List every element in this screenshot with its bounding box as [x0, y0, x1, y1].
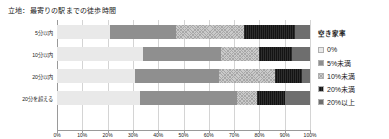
- legend-label: 20%未満: [327, 84, 355, 94]
- legend-swatch-icon: [318, 73, 324, 79]
- legend-item[interactable]: 0%: [318, 43, 386, 56]
- x-tick-label: 10%: [77, 132, 87, 138]
- bar-segment[interactable]: [57, 25, 110, 39]
- plot-area: [57, 20, 310, 130]
- x-tick-label: 40%: [153, 132, 163, 138]
- chart-container: 立地：最寄りの駅までの徒歩時間 5分以内10分以内20分以内20分を超える 0%…: [0, 0, 389, 139]
- x-tick-label: 30%: [128, 132, 138, 138]
- bar-segment[interactable]: [302, 69, 310, 83]
- bar-row[interactable]: [57, 47, 310, 61]
- x-tick-label: 90%: [280, 132, 290, 138]
- bar-segment[interactable]: [57, 91, 140, 105]
- legend-swatch-icon: [318, 86, 324, 92]
- legend-swatch-icon: [318, 47, 324, 53]
- x-tick-label: 80%: [254, 132, 264, 138]
- gridline: [310, 20, 311, 130]
- bar-segment[interactable]: [110, 25, 176, 39]
- bar-segment[interactable]: [295, 25, 310, 39]
- legend-item[interactable]: 5%未満: [318, 56, 386, 69]
- legend-item[interactable]: 10%未満: [318, 69, 386, 82]
- legend-swatch-icon: [318, 60, 324, 66]
- legend-swatch-icon: [318, 99, 324, 105]
- legend-label: 10%未満: [327, 71, 355, 81]
- category-axis-labels: 5分以内10分以内20分以内20分を超える: [0, 20, 53, 130]
- category-label: 20分以内: [1, 73, 53, 80]
- x-tick-label: 100%: [304, 132, 317, 138]
- bar-segment[interactable]: [244, 25, 295, 39]
- legend-label: 20%以上: [327, 97, 355, 107]
- bar-track: [57, 91, 310, 105]
- bar-row[interactable]: [57, 91, 310, 105]
- bar-segment[interactable]: [140, 91, 236, 105]
- bar-row[interactable]: [57, 25, 310, 39]
- bar-segment[interactable]: [135, 69, 218, 83]
- legend-label: 0%: [327, 46, 337, 53]
- x-tick-label: 60%: [204, 132, 214, 138]
- bar-track: [57, 25, 310, 39]
- legend: 空き家率 0%5%未満10%未満20%未満20%以上: [318, 28, 386, 108]
- legend-item[interactable]: 20%以上: [318, 95, 386, 108]
- x-axis-tick-labels: 0%10%20%30%40%50%60%70%80%90%100%: [57, 132, 310, 139]
- x-tick-label: 70%: [229, 132, 239, 138]
- bar-segment[interactable]: [275, 69, 303, 83]
- bar-segment[interactable]: [57, 69, 135, 83]
- chart-title: 立地：最寄りの駅までの徒歩時間: [8, 5, 116, 15]
- bar-track: [57, 69, 310, 83]
- legend-item[interactable]: 20%未満: [318, 82, 386, 95]
- bar-segment[interactable]: [257, 91, 285, 105]
- category-label: 5分以内: [1, 29, 53, 36]
- bar-row[interactable]: [57, 69, 310, 83]
- x-tick-label: 50%: [178, 132, 188, 138]
- bar-segment[interactable]: [221, 47, 259, 61]
- bar-segment[interactable]: [259, 47, 292, 61]
- bar-segment[interactable]: [219, 69, 275, 83]
- category-label: 20分を超える: [1, 95, 53, 102]
- legend-items: 0%5%未満10%未満20%未満20%以上: [318, 43, 386, 108]
- bar-track: [57, 47, 310, 61]
- legend-title: 空き家率: [318, 28, 386, 38]
- bar-segment[interactable]: [292, 47, 310, 61]
- bar-segment[interactable]: [57, 47, 143, 61]
- legend-label: 5%未満: [327, 58, 351, 68]
- bar-segment[interactable]: [143, 47, 221, 61]
- x-tick-label: 20%: [103, 132, 113, 138]
- category-label: 10分以内: [1, 51, 53, 58]
- bar-segment[interactable]: [285, 91, 310, 105]
- bar-segment[interactable]: [237, 91, 257, 105]
- x-tick-label: 0%: [53, 132, 60, 138]
- bar-segment[interactable]: [176, 25, 244, 39]
